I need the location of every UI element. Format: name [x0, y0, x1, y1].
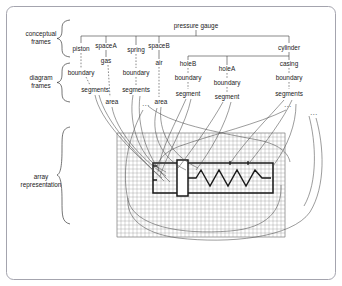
edge-piston-boundary-segments: [86, 77, 90, 85]
link-casing-segments-e: [304, 116, 314, 206]
node-holea-boundary: boundary: [214, 79, 241, 87]
side-label-line2: frames: [31, 38, 51, 45]
side-label-line1: array: [34, 173, 49, 181]
ellipsis-casing-segments-2: ...: [310, 109, 318, 116]
node-holeb-segment: segment: [176, 90, 201, 98]
side-label-array-representation: array representation: [21, 173, 62, 189]
side-label-line1: conceptual: [26, 30, 57, 38]
node-spacea: spaceA: [95, 42, 117, 50]
node-holeb-boundary: boundary: [175, 74, 202, 82]
node-air-area: area: [155, 98, 168, 105]
figure-root: conceptual frames diagram frames array r…: [0, 0, 342, 286]
brace-array-representation: [57, 127, 70, 224]
pixel-grid: [117, 133, 285, 237]
node-casing-boundary: boundary: [276, 74, 303, 82]
node-piston-boundary: boundary: [68, 69, 95, 77]
side-label-conceptual-frames: conceptual frames: [26, 30, 57, 45]
side-label-line1: diagram: [29, 74, 52, 82]
node-holea: holeA: [219, 65, 236, 72]
node-spring-segments: segments: [122, 86, 150, 94]
node-gas-area: area: [106, 98, 119, 105]
node-piston: piston: [72, 45, 89, 53]
node-spring: spring: [127, 46, 145, 54]
node-gas: gas: [101, 57, 111, 65]
node-casing-segments: segments: [275, 90, 303, 98]
brace-conceptual-frames: [57, 20, 70, 57]
ellipsis-casing-segments: ...: [284, 101, 292, 108]
ellipsis-spring-segments: ...: [142, 100, 150, 107]
side-label-line2: frames: [31, 82, 51, 89]
node-piston-segments: segments: [81, 86, 109, 94]
node-spaceb: spaceB: [148, 42, 169, 50]
node-holeb: holeB: [180, 60, 196, 67]
node-holea-segment: segment: [215, 93, 240, 101]
diagram-canvas: conceptual frames diagram frames array r…: [0, 0, 342, 286]
piston-shape: [177, 160, 188, 196]
side-label-diagram-frames: diagram frames: [29, 74, 52, 89]
node-cylinder: cylinder: [278, 44, 301, 52]
side-label-line2: representation: [21, 181, 62, 189]
node-spring-boundary: boundary: [123, 69, 150, 77]
node-air: air: [155, 59, 163, 66]
node-casing: casing: [280, 60, 299, 68]
node-pressure-gauge: pressure gauge: [174, 22, 219, 30]
